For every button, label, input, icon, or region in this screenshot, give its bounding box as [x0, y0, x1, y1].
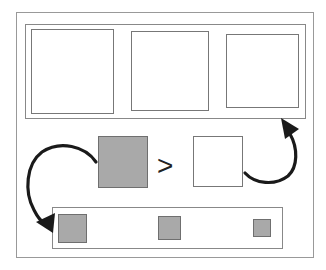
right-curved-arrow-icon	[245, 118, 299, 182]
arrows-layer	[0, 0, 326, 270]
left-curved-arrow-icon	[28, 146, 96, 233]
